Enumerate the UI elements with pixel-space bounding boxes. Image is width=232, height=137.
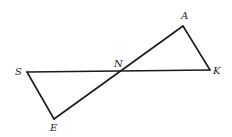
- geometry-diagram: A K S E N: [0, 0, 232, 137]
- label-point-s: S: [15, 66, 22, 77]
- label-point-k: K: [212, 65, 221, 76]
- label-point-a: A: [180, 10, 188, 21]
- label-point-e: E: [49, 122, 58, 133]
- segment-se: [27, 72, 54, 119]
- segment-ak: [183, 26, 210, 70]
- label-point-n: N: [113, 58, 124, 69]
- segment-ea: [54, 26, 183, 119]
